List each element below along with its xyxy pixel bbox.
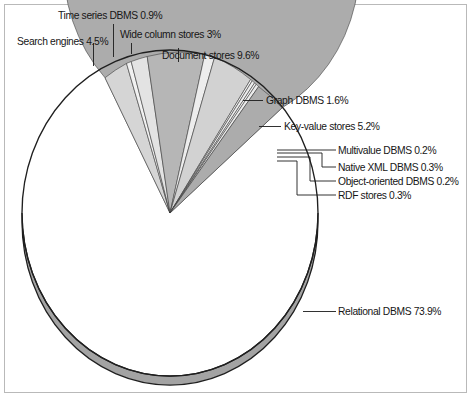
label-rdf-stores: RDF stores 0.3% [338, 190, 411, 201]
pie-depth-body [22, 213, 318, 385]
pie-chart-canvas: Time series DBMS 0.9% Search engines 4.5… [0, 0, 472, 398]
label-time-series-dbms: Time series DBMS 0.9% [58, 10, 163, 21]
leader-rdf-stores [277, 161, 336, 195]
label-relational-dbms: Relational DBMS 73.9% [338, 306, 441, 317]
leader-native-xml-dbms [277, 153, 336, 167]
pie-side-wall [22, 213, 318, 385]
label-native-xml-dbms: Native XML DBMS 0.3% [338, 162, 443, 173]
label-key-value-stores: Key-value stores 5.2% [284, 121, 380, 132]
label-multivalue-dbms: Multivalue DBMS 0.2% [338, 145, 436, 156]
label-document-stores: Document stores 9.6% [162, 50, 259, 61]
slice-labels: Time series DBMS 0.9% Search engines 4.5… [17, 10, 459, 317]
label-search-engines: Search engines 4.5% [17, 36, 108, 47]
label-graph-dbms: Graph DBMS 1.6% [266, 95, 349, 106]
label-wide-column-stores: Wide column stores 3% [120, 29, 221, 40]
label-object-oriented-dbms: Object-oriented DBMS 0.2% [338, 176, 459, 187]
pie-chart-figure: Time series DBMS 0.9% Search engines 4.5… [0, 0, 472, 398]
